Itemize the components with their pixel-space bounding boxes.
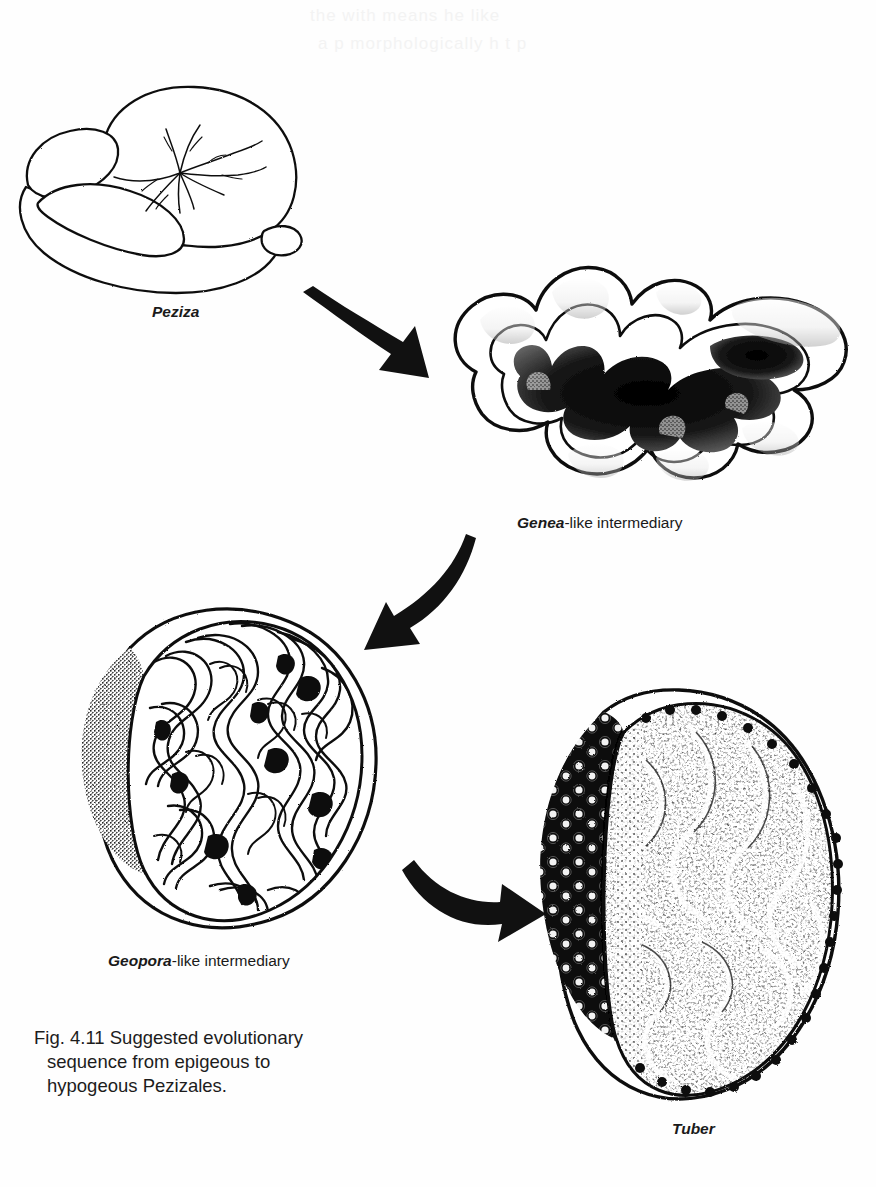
specimen-illustration-peziza bbox=[8, 55, 308, 305]
figure-caption-line-2: sequence from epigeous to bbox=[34, 1050, 364, 1074]
figure-caption-line-3: hypogeous Pezizales. bbox=[34, 1074, 364, 1098]
specimen-label-tuber: Tuber bbox=[672, 1120, 715, 1137]
specimen-illustration-tuber bbox=[520, 688, 866, 1114]
figure-caption-line-1: Fig. 4.11 Suggested evolutionary bbox=[34, 1027, 303, 1048]
specimen-illustration-geopora bbox=[62, 598, 412, 948]
curved-arrow-right-icon bbox=[303, 286, 429, 378]
specimen-genus-tuber: Tuber bbox=[672, 1120, 715, 1137]
ghost-text-line-1: the with means he like bbox=[310, 6, 500, 26]
specimen-genus-geopora: Geopora bbox=[108, 952, 172, 969]
specimen-suffix-genea: -like intermediary bbox=[564, 514, 682, 531]
specimen-label-peziza: Peziza bbox=[152, 303, 199, 320]
specimen-genus-genea: Genea bbox=[517, 514, 564, 531]
specimen-label-genea: Genea-like intermediary bbox=[517, 514, 682, 531]
ghost-text-line-2: a p morphologically h t p bbox=[318, 34, 527, 54]
specimen-suffix-geopora: -like intermediary bbox=[172, 952, 290, 969]
figure-page: the with means he like a p morphological… bbox=[0, 0, 876, 1187]
specimen-illustration-genea bbox=[420, 248, 865, 518]
specimen-genus-peziza: Peziza bbox=[152, 303, 199, 320]
specimen-label-geopora: Geopora-like intermediary bbox=[108, 952, 290, 969]
figure-caption: Fig. 4.11 Suggested evolutionary sequenc… bbox=[34, 1026, 364, 1098]
